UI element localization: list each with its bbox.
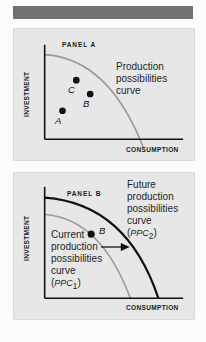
figure-container: INVESTMENT CONSUMPTION PANEL A Productio… xyxy=(0,0,206,342)
panel-b-future-label-line1: Future xyxy=(127,179,156,191)
point-c xyxy=(73,77,80,84)
panel-a-point-b-label: B xyxy=(83,98,89,109)
panel-b-future-label-line3: possibilities xyxy=(127,203,178,215)
panel-a-point-a-label: A xyxy=(55,115,61,126)
point-b xyxy=(87,91,94,98)
panel-a-curve-label-line3: curve xyxy=(116,85,140,97)
panel-b-current-ppc: (PPC1) xyxy=(51,277,81,293)
panel-a-point-c-label: C xyxy=(68,84,75,95)
point-b-on-ppc1 xyxy=(88,231,95,238)
panel-b-current-label-line1: Current xyxy=(51,229,84,241)
panel-a-y-axis-label: INVESTMENT xyxy=(23,72,30,117)
panel-b-x-axis-label: CONSUMPTION xyxy=(126,304,179,311)
future-ppc-text: PPC xyxy=(130,228,149,238)
panel-a-x-axis-label: CONSUMPTION xyxy=(126,146,179,153)
panel-a-curve-label-line2: possibilities xyxy=(116,73,167,85)
panel-a-plot xyxy=(14,29,194,160)
panel-b-future-ppc: (PPC2) xyxy=(127,227,157,243)
panel-b-future-label-line4: curve xyxy=(127,215,151,227)
panel-b-future-label-line2: production xyxy=(127,191,174,203)
panel-b-current-label-line2: production xyxy=(51,241,98,253)
future-ppc-close-paren: ) xyxy=(154,227,157,238)
current-ppc-text: PPC xyxy=(54,278,73,288)
panel-a-tag: PANEL A xyxy=(62,41,96,48)
panel-a-curve-label-line1: Production xyxy=(116,61,164,73)
panel-b-point-b-label: B xyxy=(99,225,105,236)
current-ppc-close-paren: ) xyxy=(78,277,81,288)
point-a xyxy=(59,107,66,114)
panel-b-tag: PANEL B xyxy=(67,190,101,197)
panel-b: INVESTMENT CONSUMPTION PANEL B Future pr… xyxy=(13,172,195,320)
header-bar xyxy=(13,6,193,19)
panel-b-current-label-line4: curve xyxy=(51,265,75,277)
panel-b-y-axis-label: INVESTMENT xyxy=(23,216,30,261)
panel-b-current-label-line3: possibilities xyxy=(51,253,102,265)
panel-a: INVESTMENT CONSUMPTION PANEL A Productio… xyxy=(13,28,195,161)
